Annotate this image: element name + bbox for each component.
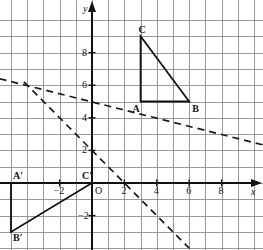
x-tick-label-2: 2 [121, 186, 126, 196]
vertex-label-c-prime: C′ [82, 171, 92, 181]
y-tick-label-6: 6 [82, 80, 87, 90]
x-tick-label-neg2: −2 [54, 186, 65, 196]
y-tick-label-8: 8 [82, 48, 87, 58]
vertex-label-b-prime: B′ [13, 233, 22, 243]
vertex-label-a: A [133, 104, 140, 114]
y-tick-label-neg2: −2 [78, 211, 89, 221]
x-axis-label: x [251, 187, 255, 197]
grid-lines [0, 0, 263, 250]
y-tick-label-4: 4 [82, 113, 87, 123]
figure-canvas: y x O −2 2 4 6 8 −2 2 4 6 8 A B C A′ B′ … [0, 0, 263, 250]
vertex-label-b: B [192, 104, 199, 114]
x-tick-label-8: 8 [219, 186, 224, 196]
y-axis-label: y [83, 4, 87, 14]
vertex-label-a-prime: A′ [13, 171, 23, 181]
x-tick-label-6: 6 [186, 186, 191, 196]
y-tick-label-2: 2 [82, 145, 87, 155]
x-tick-label-4: 4 [154, 186, 159, 196]
triangles [11, 36, 189, 232]
vertex-label-c: C [139, 25, 146, 35]
coordinate-plane-svg [0, 0, 263, 250]
origin-label: O [95, 186, 102, 196]
dashed-lines [0, 79, 263, 249]
